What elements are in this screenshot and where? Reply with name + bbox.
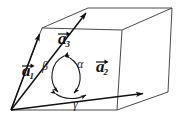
vector-overarrow-icon — [96, 58, 109, 64]
vector-label-a2: a2 — [96, 58, 108, 77]
angle-label-alpha: α — [77, 58, 83, 70]
arc-gamma — [56, 94, 86, 99]
edge-topleft-midright — [42, 28, 122, 30]
vector-label-a1: a1 — [22, 62, 34, 81]
vector-label-a3: a3 — [58, 30, 70, 49]
parallelepiped-figure: a1 a2 a3 α β γ — [0, 0, 187, 124]
edge-midright-bottomfront — [117, 30, 122, 110]
edge-bottomfront-bottomright — [117, 92, 168, 110]
edge-topleft-topmid — [42, 8, 88, 28]
arc-beta — [52, 56, 64, 92]
angle-label-beta: β — [42, 60, 48, 72]
angle-label-gamma: γ — [73, 98, 78, 110]
vector-overarrow-icon — [58, 30, 71, 36]
edge-midright-topright — [122, 8, 172, 30]
edge-topright-bottomright — [168, 8, 172, 92]
vector-overarrow-icon — [22, 62, 35, 68]
cell-edges — [11, 8, 172, 110]
